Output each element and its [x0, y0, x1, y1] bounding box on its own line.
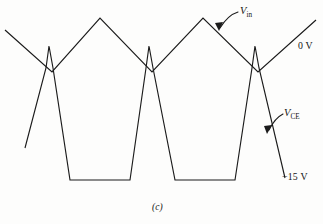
figure-caption: (c): [152, 203, 163, 213]
waveform-plot: [0, 0, 323, 224]
label-v-ce: VCE: [284, 108, 300, 121]
figure-container: Vin VCE 0 V −15 V (c): [0, 0, 323, 224]
label-v-ce-subscript: CE: [290, 113, 299, 121]
v-in-arrowhead-icon: [215, 22, 223, 31]
trace-v-ce: [25, 46, 285, 180]
label-zero-volt-level: 0 V: [298, 41, 313, 51]
label-v-in-subscript: in: [246, 11, 252, 19]
label-v-in: Vin: [240, 6, 252, 19]
v-ce-leader-line: [269, 114, 283, 130]
v-ce-arrowhead-icon: [264, 125, 272, 134]
v-in-leader-line: [220, 12, 238, 28]
label-negative-fifteen-volt-level: −15 V: [282, 172, 308, 182]
trace-v-in: [5, 18, 316, 72]
